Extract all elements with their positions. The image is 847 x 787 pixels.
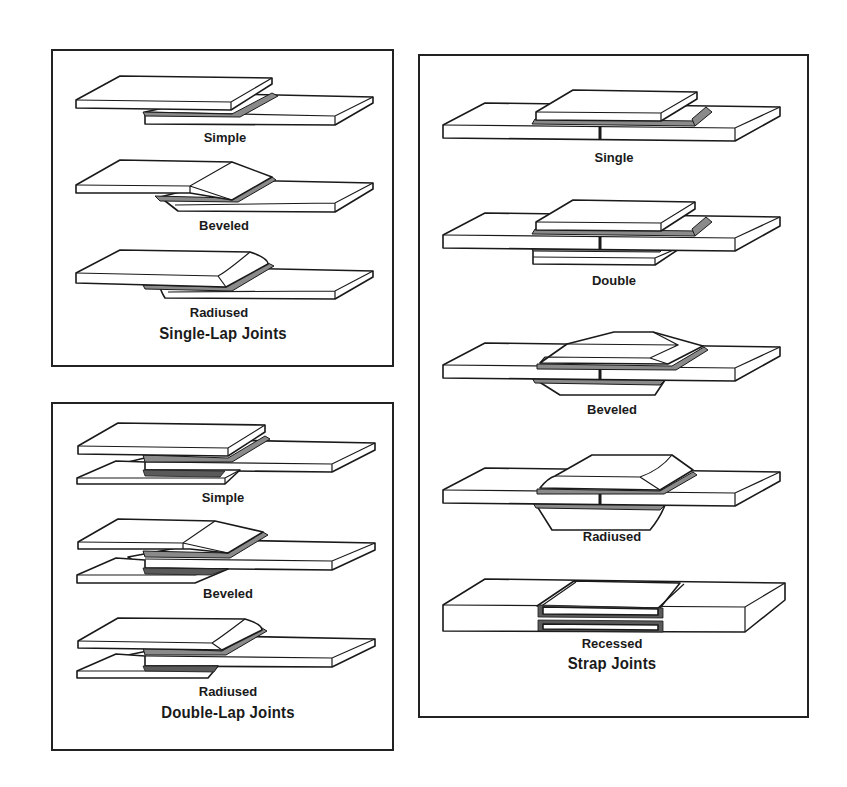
strap-recessed-drawing (443, 579, 785, 632)
joint-illustrations (0, 0, 847, 787)
single-lap-radiused-drawing (76, 250, 373, 299)
strap-radiused-label: Radiused (583, 529, 642, 544)
single-lap-beveled-label: Beveled (199, 218, 249, 233)
single-lap-beveled-drawing (76, 160, 373, 212)
single-lap-radiused-label: Radiused (190, 305, 249, 320)
strap-single-label: Single (594, 150, 633, 165)
double-lap-beveled-label: Beveled (203, 586, 253, 601)
strap-beveled-label: Beveled (587, 402, 637, 417)
double-lap-radiused-drawing (77, 618, 375, 678)
strap-double-label: Double (592, 273, 636, 288)
strap-radiused-drawing (443, 455, 780, 530)
strap-recessed-label: Recessed (582, 636, 643, 651)
strap-double-drawing (443, 200, 780, 265)
single-lap-joints-title: Single-Lap Joints (159, 324, 287, 344)
double-lap-simple-label: Simple (202, 490, 245, 505)
double-lap-joints-title: Double-Lap Joints (161, 703, 294, 723)
single-lap-simple-drawing (76, 76, 373, 125)
strap-beveled-drawing (443, 332, 780, 395)
double-lap-beveled-drawing (77, 519, 375, 583)
single-lap-simple-label: Simple (204, 130, 247, 145)
double-lap-simple-drawing (77, 423, 375, 484)
strap-joints-title: Strap Joints (568, 654, 657, 674)
double-lap-radiused-label: Radiused (199, 684, 258, 699)
strap-single-drawing (443, 90, 780, 141)
